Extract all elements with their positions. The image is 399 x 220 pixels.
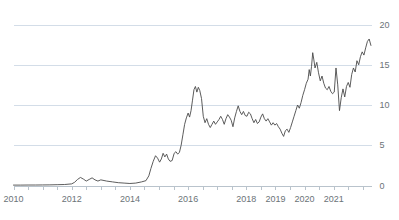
x-axis-label-2021: 2021	[324, 194, 344, 204]
data-series	[14, 39, 371, 185]
y-axis-label-5: 5	[380, 140, 385, 150]
x-axis-label-2014: 2014	[120, 194, 140, 204]
y-axis-label-10: 10	[380, 100, 390, 110]
x-axis-label-2019: 2019	[265, 194, 285, 204]
x-axis-label-2010: 2010	[3, 194, 23, 204]
x-axis-label-2020: 2020	[295, 194, 315, 204]
x-axis-labels: 20102012201420162018201920202021	[3, 194, 343, 204]
line-chart: 05101520 2010201220142016201820192020202…	[0, 0, 399, 220]
y-axis-label-20: 20	[380, 20, 390, 30]
series-line-1	[14, 39, 371, 185]
gridlines	[14, 26, 372, 187]
y-axis-labels: 05101520	[380, 20, 390, 191]
chart-container: 05101520 2010201220142016201820192020202…	[0, 0, 399, 220]
x-axis-label-2018: 2018	[236, 194, 256, 204]
y-axis-label-0: 0	[380, 181, 385, 191]
y-axis-label-15: 15	[380, 60, 390, 70]
x-axis-label-2012: 2012	[62, 194, 82, 204]
x-axis-label-2016: 2016	[178, 194, 198, 204]
